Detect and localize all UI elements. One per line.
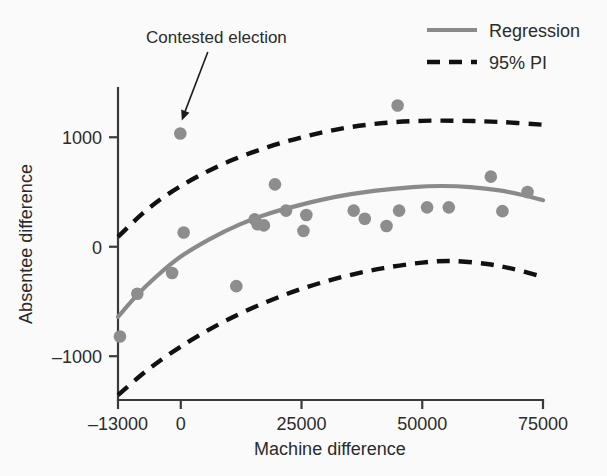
data-point	[421, 201, 434, 214]
data-point	[443, 201, 456, 214]
data-point	[280, 204, 293, 217]
legend-label-pi: 95% PI	[489, 53, 547, 73]
data-point	[496, 205, 509, 218]
x-tick-label: –13000	[88, 414, 148, 434]
annotation-label: Contested election	[146, 28, 287, 47]
y-axis-title: Absentee difference	[16, 164, 36, 324]
data-point	[131, 288, 144, 301]
data-point	[297, 225, 310, 238]
x-tick-label: 50000	[397, 414, 447, 434]
data-point	[521, 186, 534, 199]
data-point	[380, 220, 393, 233]
data-point	[391, 99, 404, 112]
chart-figure: 10000–1000 –130000250005000075000 Contes…	[0, 0, 607, 476]
data-point	[485, 170, 498, 183]
data-point	[358, 213, 371, 226]
data-point	[230, 280, 243, 293]
scatter-plot-svg: 10000–1000 –130000250005000075000 Contes…	[0, 0, 607, 476]
data-point	[393, 204, 406, 217]
y-tick-label: –1000	[52, 347, 102, 367]
data-point	[347, 204, 360, 217]
data-point	[174, 127, 187, 140]
data-point	[269, 178, 282, 191]
data-point	[177, 226, 190, 239]
legend-label-regression: Regression	[489, 21, 580, 41]
x-tick-label: 75000	[518, 414, 568, 434]
data-point	[258, 219, 271, 232]
x-tick-label: 25000	[276, 414, 326, 434]
x-axis-title: Machine difference	[254, 439, 406, 459]
data-point	[166, 267, 179, 280]
data-point	[300, 209, 313, 222]
y-tick-label: 1000	[62, 128, 102, 148]
y-tick-label: 0	[92, 238, 102, 258]
x-tick-label: 0	[176, 414, 186, 434]
data-point	[114, 330, 127, 343]
